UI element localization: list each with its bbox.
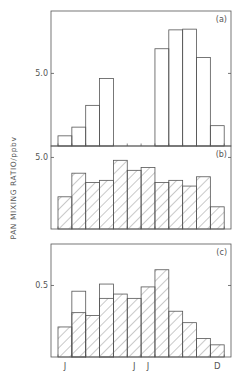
bar-A (100, 180, 114, 229)
bar-F (72, 127, 86, 146)
bar-D (210, 207, 224, 229)
bar-J (58, 136, 72, 146)
bar-A (100, 298, 114, 357)
panel-label: (b) (216, 150, 227, 159)
y-tick-label: 5.0 (35, 153, 48, 162)
bar-M (86, 105, 100, 146)
panel-label: (c) (216, 248, 227, 257)
bar-O (183, 186, 197, 229)
panel-b: 5.0(b) (35, 146, 231, 229)
bar-S (169, 30, 183, 146)
x-tick-label: J (146, 361, 150, 371)
bar-A (155, 49, 169, 146)
bar-F (72, 173, 86, 229)
bar-M (86, 182, 100, 229)
bar-M (86, 316, 100, 357)
bar-J (127, 170, 141, 229)
bar-A (100, 79, 114, 147)
bar-N (197, 177, 211, 229)
panel-a: 5.0(a) (35, 11, 231, 146)
x-tick-label: J (132, 361, 136, 371)
bar-J (141, 167, 155, 229)
bar-M (113, 160, 127, 229)
bar-M (113, 294, 127, 357)
panel-label: (a) (216, 15, 227, 24)
bar-A (155, 182, 169, 229)
y-tick-label: 0.5 (35, 281, 48, 290)
bar-A (155, 270, 169, 357)
chart-canvas: 5.0(a)5.0(b)0.5(c)JJJD (0, 0, 242, 378)
y-tick-label: 5.0 (35, 69, 48, 78)
bar-O (183, 29, 197, 146)
x-tick-label: D (214, 361, 221, 371)
bar-J (58, 197, 72, 229)
bar-S (169, 180, 183, 229)
bar-N (197, 338, 211, 357)
pan-mixing-ratio-figure: 5.0(a)5.0(b)0.5(c)JJJD PAN MIXING RATIO/… (0, 0, 242, 378)
x-tick-label: J (63, 361, 67, 371)
y-axis-label: PAN MIXING RATIO/ppbv (9, 93, 21, 283)
bar-S (169, 311, 183, 357)
bar-J (127, 298, 141, 357)
bar-N (197, 57, 211, 146)
bar-F (72, 313, 86, 357)
bar-O (183, 323, 197, 357)
bar-J (141, 287, 155, 357)
panel-frame (51, 11, 231, 146)
bar-J (58, 327, 72, 357)
bar-D (210, 126, 224, 146)
bar-D (210, 345, 224, 357)
panel-c: 0.5(c) (35, 244, 231, 357)
